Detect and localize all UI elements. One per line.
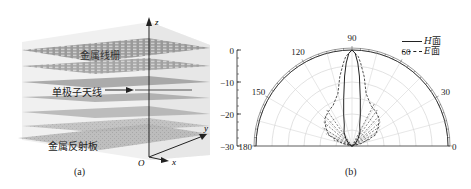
svg-text:0: 0 <box>230 46 235 56</box>
panel-a-structure: z y x O 金属线栅 单极子天线 金属反射板 (a) <box>0 0 215 189</box>
structure-illustration: z y x O <box>0 0 215 189</box>
legend-h-text: 面 <box>432 36 441 46</box>
svg-text:30: 30 <box>441 87 451 97</box>
panel-b-caption: (b) <box>345 166 357 177</box>
monopole-antenna-label: 单极子天线 <box>52 84 102 99</box>
svg-text:120: 120 <box>291 47 305 57</box>
x-axis-label: x <box>171 157 176 167</box>
svg-text:180: 180 <box>239 142 253 152</box>
origin-label: O <box>138 158 145 168</box>
svg-text:0: 0 <box>452 142 457 152</box>
solid-line-swatch <box>402 41 422 42</box>
legend-item-h: H 面 <box>402 36 441 46</box>
legend-e-symbol: E <box>424 46 431 56</box>
svg-text:150: 150 <box>252 87 266 97</box>
panel-b-radiation-pattern: 0−10−20−30 1801501209060300 H 面 E 面 (b) <box>215 0 471 189</box>
svg-text:−20: −20 <box>220 110 235 120</box>
svg-text:−10: −10 <box>220 78 235 88</box>
legend-item-e: E 面 <box>402 46 441 56</box>
legend-h-symbol: H <box>424 36 432 46</box>
panel-a-caption: (a) <box>74 166 85 177</box>
dashed-line-swatch <box>402 51 422 52</box>
svg-text:−30: −30 <box>220 142 235 152</box>
legend: H 面 E 面 <box>402 36 441 56</box>
polar-chart: 0−10−20−30 1801501209060300 <box>215 0 471 189</box>
legend-e-text: 面 <box>431 46 440 56</box>
metal-grid-label: 金属线栅 <box>80 47 120 62</box>
polar-grid <box>252 46 452 146</box>
y-axis-label: y <box>203 123 208 133</box>
radial-axis: 0−10−20−30 <box>220 46 241 152</box>
metal-reflector-label: 金属反射板 <box>48 138 98 153</box>
z-axis-label: z <box>154 17 159 27</box>
svg-text:90: 90 <box>348 33 358 43</box>
